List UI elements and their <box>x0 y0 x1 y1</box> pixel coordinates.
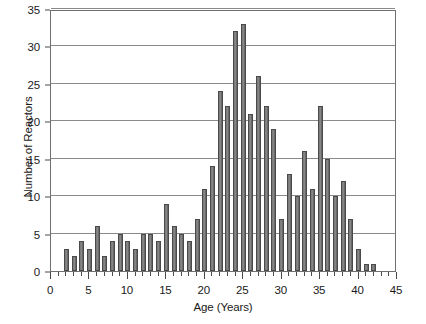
x-tick-mark-minor <box>258 272 259 276</box>
x-tick-label: 0 <box>47 284 53 296</box>
x-tick-mark-minor <box>381 272 382 276</box>
bar <box>310 189 315 271</box>
x-tick-mark-minor <box>65 272 66 276</box>
bar <box>356 249 361 271</box>
x-tick-mark-minor <box>150 272 151 276</box>
x-tick-mark-minor <box>188 272 189 276</box>
bar <box>318 106 323 271</box>
x-tick-mark-minor <box>388 272 389 276</box>
x-tick-mark-minor <box>296 272 297 276</box>
x-tick-mark-minor <box>365 272 366 276</box>
bar <box>233 31 238 271</box>
bar <box>256 76 261 271</box>
plot-area <box>50 10 396 272</box>
x-tick-mark-minor <box>196 272 197 276</box>
x-tick-mark-minor <box>327 272 328 276</box>
bar <box>172 226 177 271</box>
bar <box>287 174 292 271</box>
y-tick-label: 35 <box>28 4 40 16</box>
bar <box>64 249 69 271</box>
bar <box>95 226 100 271</box>
bar <box>218 91 223 271</box>
x-tick-label: 45 <box>390 284 402 296</box>
bar <box>241 24 246 271</box>
x-tick-mark-major <box>358 272 359 279</box>
x-tick-mark-minor <box>135 272 136 276</box>
y-tick-label: 5 <box>34 229 40 241</box>
x-tick-mark-minor <box>373 272 374 276</box>
x-tick-mark-minor <box>112 272 113 276</box>
y-tick-label: 30 <box>28 41 40 53</box>
x-tick-mark-minor <box>58 272 59 276</box>
x-tick-mark-minor <box>350 272 351 276</box>
x-tick-mark-minor <box>273 272 274 276</box>
bar <box>271 129 276 271</box>
x-tick-mark-minor <box>96 272 97 276</box>
x-tick-mark-major <box>396 272 397 279</box>
x-tick-label: 35 <box>313 284 325 296</box>
x-tick-mark-minor <box>265 272 266 276</box>
x-tick-mark-minor <box>250 272 251 276</box>
x-tick-mark-minor <box>173 272 174 276</box>
x-axis: 051015202530354045 <box>50 272 396 284</box>
x-tick-mark-minor <box>311 272 312 276</box>
x-tick-label: 30 <box>274 284 286 296</box>
x-tick-mark-minor <box>211 272 212 276</box>
x-tick-mark-minor <box>227 272 228 276</box>
bar <box>364 264 369 271</box>
bar <box>148 234 153 271</box>
x-tick-mark-major <box>204 272 205 279</box>
x-tick-mark-minor <box>334 272 335 276</box>
x-tick-label: 15 <box>159 284 171 296</box>
x-tick-mark-minor <box>81 272 82 276</box>
bar <box>295 196 300 271</box>
x-tick-mark-major <box>50 272 51 279</box>
bars-layer <box>51 11 395 271</box>
bar <box>195 219 200 271</box>
bar <box>72 256 77 271</box>
bar <box>133 249 138 271</box>
y-axis-title: Number of Reactors <box>22 67 34 227</box>
x-tick-mark-minor <box>288 272 289 276</box>
bar <box>141 234 146 271</box>
bar <box>87 249 92 271</box>
gridline <box>51 8 395 9</box>
bar <box>341 181 346 271</box>
x-tick-mark-minor <box>304 272 305 276</box>
x-tick-label: 20 <box>198 284 210 296</box>
bar <box>202 189 207 271</box>
x-tick-mark-major <box>319 272 320 279</box>
x-tick-mark-minor <box>219 272 220 276</box>
bar <box>125 241 130 271</box>
x-tick-mark-major <box>165 272 166 279</box>
bar <box>302 151 307 271</box>
x-tick-mark-minor <box>158 272 159 276</box>
bar <box>248 114 253 271</box>
y-tick-label: 0 <box>34 266 40 278</box>
x-tick-mark-minor <box>142 272 143 276</box>
bar <box>102 256 107 271</box>
bar <box>348 219 353 271</box>
bar <box>156 241 161 271</box>
bar <box>210 166 215 271</box>
x-tick-mark-minor <box>181 272 182 276</box>
x-tick-label: 5 <box>85 284 91 296</box>
x-tick-label: 10 <box>121 284 133 296</box>
bar <box>187 241 192 271</box>
bar <box>371 264 376 271</box>
bar <box>325 159 330 271</box>
bar <box>110 241 115 271</box>
x-tick-mark-major <box>127 272 128 279</box>
bar <box>279 219 284 271</box>
x-tick-mark-major <box>281 272 282 279</box>
reactor-age-histogram-figure: 05101520253035 Number of Reactors 051015… <box>0 0 426 324</box>
bar <box>118 234 123 271</box>
bar <box>79 241 84 271</box>
x-axis-title: Age (Years) <box>50 301 396 313</box>
x-tick-mark-minor <box>235 272 236 276</box>
x-tick-mark-minor <box>73 272 74 276</box>
x-tick-label: 25 <box>236 284 248 296</box>
x-tick-mark-minor <box>119 272 120 276</box>
x-tick-mark-major <box>88 272 89 279</box>
bar <box>179 234 184 271</box>
